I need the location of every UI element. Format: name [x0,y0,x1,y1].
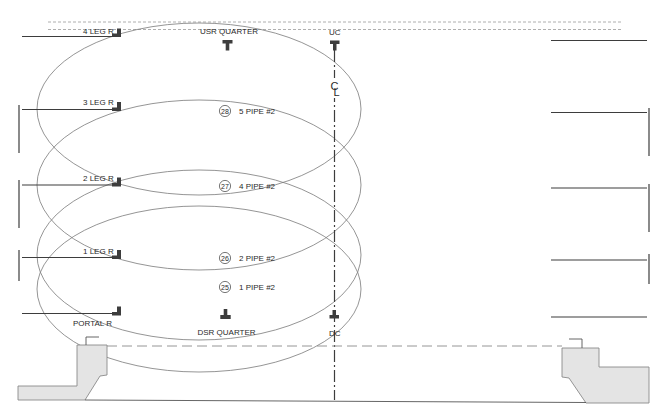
pipe-item: 28 5 PIPE #2 [219,105,275,116]
leg-label-4: 4 LEG R [83,27,114,36]
leg-label-2: 2 LEG R [83,174,114,183]
right-proscenium-wall [562,348,649,403]
right-bracket [569,339,582,348]
leg-labels: 4 LEG R 3 LEG R 2 LEG R 1 LEG R PORTAL R [73,27,114,329]
dsr-quarter-label: DSR QUARTER [198,328,256,337]
pipe-number: 26 [221,255,229,262]
right-leg-lines [551,41,649,318]
stage-plot-drawing: C L 4 LEG R 3 LEG R 2 LEG R 1 LEG R PORT… [0,0,669,419]
centerline-symbol-l: L [334,86,340,98]
pipe-item: 25 1 PIPE #2 [219,281,275,292]
leg-label-3: 3 LEG R [83,98,114,107]
pipe-label: 1 PIPE #2 [239,283,276,292]
pipe-label: 2 PIPE #2 [239,254,276,263]
uc-marker-icon [330,41,340,51]
pipe-number: 28 [221,108,229,115]
quarter-markers [220,40,339,319]
portal-marker-icon [112,307,121,316]
stage-apron [18,337,649,403]
pipe-item: 27 4 PIPE #2 [219,180,275,191]
pipe-label: 5 PIPE #2 [239,107,276,116]
uc-label: UC [329,28,341,37]
pipe-number: 27 [221,183,229,190]
dsr-quarter-marker-icon [220,309,230,319]
pipe-labels: 28 5 PIPE #2 27 4 PIPE #2 26 2 PIPE #2 2… [219,105,275,292]
usr-quarter-marker-icon [223,40,233,51]
dc-label: DC [329,329,341,338]
stage-edge-line [85,400,586,403]
leg-markers [112,29,121,316]
pipe-item: 26 2 PIPE #2 [219,252,275,263]
leg-label-1: 1 LEG R [83,247,114,256]
portal-label: PORTAL R [73,319,112,328]
pipe-label: 4 PIPE #2 [239,182,276,191]
left-bracket [86,337,99,345]
usr-quarter-label: USR QUARTER [200,27,258,36]
pipe-number: 25 [221,284,229,291]
left-proscenium-wall [18,345,107,400]
